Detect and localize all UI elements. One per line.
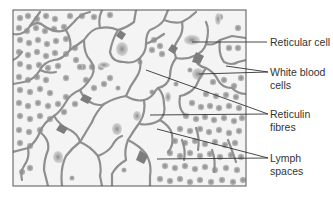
label-lymph-spaces-line1: Lymph bbox=[270, 152, 301, 164]
label-reticulin-fibres-line1: Reticulin bbox=[270, 108, 310, 120]
label-reticulin-fibres-line2: fibres bbox=[270, 121, 296, 133]
label-lymph-spaces: Lymph spaces bbox=[270, 152, 303, 177]
label-white-blood-cells-line2: cells bbox=[270, 79, 291, 91]
label-white-blood-cells-line1: White blood bbox=[270, 66, 325, 78]
label-reticular-cell: Reticular cell bbox=[270, 36, 330, 49]
label-lymph-spaces-line2: spaces bbox=[270, 165, 303, 177]
label-reticular-cell-line1: Reticular cell bbox=[270, 36, 330, 48]
label-reticulin-fibres: Reticulin fibres bbox=[270, 108, 310, 133]
label-white-blood-cells: White blood cells bbox=[270, 66, 325, 91]
